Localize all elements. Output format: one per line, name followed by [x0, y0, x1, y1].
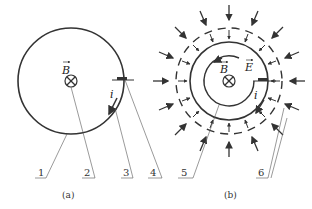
callout-4: 4 [150, 167, 156, 178]
b-label: B [61, 64, 70, 77]
b-label: B [219, 63, 228, 76]
callout-2: 2 [84, 167, 90, 178]
caption-b: (b) [224, 190, 237, 200]
panel-a: B i 1 2 3 4 (a) [18, 28, 162, 200]
callout-3: 3 [123, 167, 129, 178]
callout-1: 1 [38, 167, 44, 178]
current-label: i [110, 88, 114, 101]
caption-a: (a) [62, 190, 74, 200]
current-label: i [254, 89, 258, 102]
gap-contact [112, 77, 134, 80]
callout-5: 5 [181, 167, 187, 178]
panel-b: B E i [153, 5, 305, 200]
e-label: E [244, 61, 253, 74]
b-field-into-page-icon [223, 75, 235, 87]
diagram-canvas: B i 1 2 3 4 (a) B E [0, 0, 312, 209]
callout-6: 6 [258, 167, 264, 178]
